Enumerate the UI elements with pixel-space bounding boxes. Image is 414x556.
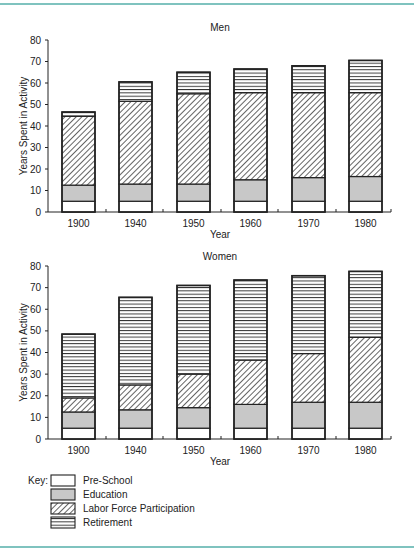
bar-segment-pre-school [62, 428, 95, 439]
bar-1900 [62, 334, 95, 439]
bar-segment-pre-school [234, 201, 267, 212]
x-tick-label: 1950 [182, 445, 205, 456]
bar-segment-labor-force-participation [62, 398, 95, 412]
bar-segment-pre-school [177, 428, 210, 439]
x-tick-label: 1970 [297, 218, 320, 229]
bar-1940 [119, 82, 152, 212]
y-tick-label: 30 [30, 142, 42, 153]
bar-segment-labor-force-participation [177, 374, 210, 408]
bar-segment-education [349, 402, 382, 428]
bar-1980 [349, 271, 382, 439]
bar-segment-retirement [62, 334, 95, 398]
x-tick-label: 1970 [297, 445, 320, 456]
x-tick-label: 1900 [67, 445, 90, 456]
x-tick-label: 1980 [354, 445, 377, 456]
bar-1970 [292, 66, 325, 212]
x-axis-label: Year [210, 229, 231, 240]
bar-segment-education [119, 410, 152, 428]
bar-segment-retirement [349, 60, 382, 92]
bar-segment-education [119, 184, 152, 201]
legend-label: Pre-School [83, 475, 132, 486]
x-tick-label: 1960 [239, 445, 262, 456]
x-tick-label: 1900 [67, 218, 90, 229]
legend-label: Retirement [83, 517, 132, 528]
bar-1960 [234, 280, 267, 439]
bar-segment-labor-force-participation [177, 94, 210, 184]
bar-segment-labor-force-participation [62, 116, 95, 185]
bar-segment-education [62, 185, 95, 201]
y-tick-label: 40 [30, 121, 42, 132]
legend-item-labor-force-participation: Labor Force Participation [51, 503, 195, 514]
bar-segment-retirement [119, 82, 152, 101]
bar-segment-retirement [292, 66, 325, 93]
bar-segment-pre-school [292, 201, 325, 212]
chart-title: Men [210, 22, 229, 33]
y-tick-label: 20 [30, 164, 42, 175]
bar-segment-pre-school [292, 428, 325, 439]
y-tick-label: 70 [30, 282, 42, 293]
bar-segment-education [292, 178, 325, 202]
bar-segment-labor-force-participation [292, 93, 325, 178]
bar-segment-retirement [234, 69, 267, 93]
bar-segment-labor-force-participation [119, 385, 152, 410]
bar-segment-labor-force-participation [234, 360, 267, 404]
y-tick-label: 50 [30, 325, 42, 336]
bar-segment-pre-school [62, 201, 95, 212]
y-tick-label: 60 [30, 78, 42, 89]
legend-swatch [51, 517, 75, 528]
bar-segment-labor-force-participation [292, 354, 325, 403]
bar-segment-retirement [177, 285, 210, 374]
stacked-bar-charts: MenYears Spent in Activity01020304050607… [0, 0, 414, 556]
x-tick-label: 1940 [124, 218, 147, 229]
bar-segment-retirement [292, 276, 325, 354]
legend-label: Labor Force Participation [83, 503, 195, 514]
y-tick-label: 10 [30, 412, 42, 423]
y-tick-label: 60 [30, 304, 42, 315]
bar-segment-pre-school [234, 428, 267, 439]
chart-panel-men: MenYears Spent in Activity01020304050607… [18, 22, 391, 240]
bar-segment-retirement [119, 297, 152, 385]
y-axis-label: Years Spent in Activity [18, 303, 29, 402]
legend-swatch [51, 489, 75, 500]
bar-1960 [234, 69, 267, 212]
bar-segment-education [349, 177, 382, 202]
y-tick-label: 80 [30, 261, 42, 272]
x-tick-label: 1960 [239, 218, 262, 229]
y-tick-label: 0 [35, 434, 41, 445]
bar-segment-labor-force-participation [349, 337, 382, 402]
bar-segment-labor-force-participation [349, 93, 382, 177]
chart-title: Women [203, 251, 237, 262]
bar-segment-retirement [177, 72, 210, 94]
bar-segment-pre-school [119, 201, 152, 212]
bar-segment-retirement [349, 271, 382, 337]
legend-swatch [51, 503, 75, 514]
bar-segment-education [177, 408, 210, 429]
legend: Key:Pre-SchoolEducationLabor Force Parti… [28, 475, 195, 528]
bar-segment-education [234, 180, 267, 202]
y-tick-label: 30 [30, 369, 42, 380]
bar-1950 [177, 285, 210, 439]
bar-segment-labor-force-participation [119, 101, 152, 184]
legend-swatch [51, 475, 75, 486]
bar-segment-pre-school [349, 428, 382, 439]
x-tick-label: 1940 [124, 445, 147, 456]
y-tick-label: 20 [30, 390, 42, 401]
bar-segment-education [177, 184, 210, 201]
bar-segment-retirement [234, 280, 267, 360]
y-tick-label: 40 [30, 347, 42, 358]
x-tick-label: 1980 [354, 218, 377, 229]
chart-panel-women: WomenYears Spent in Activity010203040506… [18, 251, 391, 467]
y-axis-label: Years Spent in Activity [18, 77, 29, 176]
bar-segment-pre-school [119, 428, 152, 439]
bar-segment-education [292, 402, 325, 428]
bar-segment-pre-school [349, 201, 382, 212]
bar-segment-education [234, 404, 267, 428]
y-tick-label: 10 [30, 185, 42, 196]
x-tick-label: 1950 [182, 218, 205, 229]
y-tick-label: 70 [30, 56, 42, 67]
legend-item-education: Education [51, 489, 127, 500]
bar-1940 [119, 297, 152, 439]
bar-1950 [177, 72, 210, 212]
bar-segment-labor-force-participation [234, 93, 267, 180]
y-tick-label: 80 [30, 35, 42, 46]
